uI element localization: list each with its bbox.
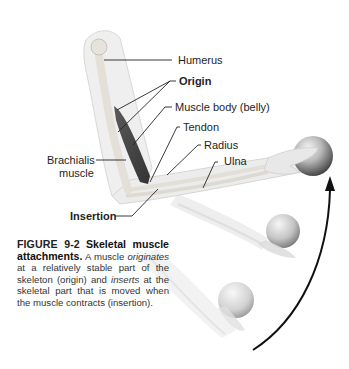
- label-humerus: Humerus: [178, 54, 223, 66]
- label-origin: Origin: [179, 75, 211, 87]
- figure-number: FIGURE 9-2: [17, 238, 80, 250]
- label-brachialis-line1: Brachialis: [47, 154, 95, 166]
- caption-emphasis: inserts: [111, 274, 139, 285]
- label-tendon: Tendon: [183, 121, 219, 133]
- label-radius: Radius: [204, 139, 238, 151]
- figure-caption: FIGURE 9-2 Skeletal muscle attachments. …: [17, 239, 169, 309]
- label-muscle-body: Muscle body (belly): [175, 101, 270, 113]
- caption-text: A muscle: [85, 251, 124, 262]
- caption-emphasis: originates: [127, 251, 169, 262]
- lower-arm-position-2: [170, 194, 268, 250]
- arm-flexion-illustration: [0, 0, 349, 369]
- label-ulna: Ulna: [224, 155, 247, 167]
- motion-arrow: [253, 190, 330, 350]
- label-insertion: Insertion: [70, 210, 116, 222]
- arrowhead-icon: [325, 176, 335, 191]
- label-brachialis-line2: muscle: [59, 167, 94, 179]
